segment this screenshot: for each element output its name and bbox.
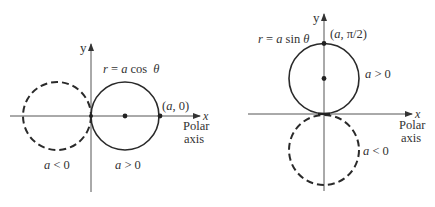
y-axis-label: y [80, 40, 87, 55]
polar-axis-label: Polar axis [183, 119, 213, 146]
center-point [322, 76, 327, 81]
center-point [123, 114, 128, 119]
region-label-positive: a > 0 [365, 67, 391, 81]
region-label-positive: a > 0 [115, 158, 141, 172]
origin-point [89, 114, 93, 118]
point-a-pi-over-2 [322, 41, 327, 46]
point-a-0 [158, 114, 163, 119]
equation-label: r = a cos θ [103, 62, 160, 76]
polar-axis-label: Polar axis [399, 118, 429, 145]
polar-circles-diagram: y x r = a cos θ (a, 0) Polar axis a < 0 … [0, 0, 435, 207]
sine-figure: y x r = a sin θ (a, π/2) Polar axis a > … [248, 10, 429, 191]
equation-label: r = a sin θ [258, 32, 309, 46]
region-label-negative: a < 0 [363, 144, 389, 158]
cosine-figure: y x r = a cos θ (a, 0) Polar axis a < 0 … [10, 40, 213, 192]
point-label: (a, 0) [162, 99, 189, 113]
region-label-negative: a < 0 [44, 158, 70, 172]
y-axis-label: y [313, 10, 320, 25]
point-label: (a, π/2) [330, 27, 367, 41]
